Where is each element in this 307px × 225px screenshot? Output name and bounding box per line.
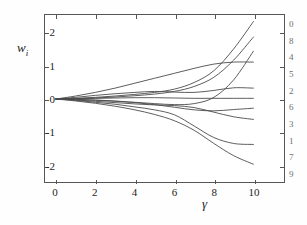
series-line-0 [56,22,254,99]
x-axis-title: γ [202,196,207,212]
series-end-label-0: 0 [289,19,294,29]
x-tick-2 [96,180,97,184]
x-tick-0 [56,180,57,184]
x-tick-top-6 [176,15,177,19]
series-line-7 [56,99,254,144]
y-axis-title-subscript: i [26,48,29,58]
x-tick-label-4: 4 [132,186,138,198]
series-end-label-9: 9 [289,169,294,179]
x-tick-6 [176,180,177,184]
y-tick-2 [45,33,49,34]
y-tick-right--1 [280,133,284,134]
figure-canvas: wi γ 0246810210-1-2 0845263179 [0,0,307,225]
series-line-9 [56,99,254,164]
y-axis-title-base: w [17,40,26,55]
curve-layer [45,15,284,182]
x-tick-label-8: 8 [212,186,218,198]
y-tick-0 [45,100,49,101]
x-tick-label-0: 0 [52,186,58,198]
y-tick-1 [45,67,49,68]
x-tick-top-2 [96,15,97,19]
plot-area [44,14,285,183]
series-end-label-6: 6 [289,102,294,112]
x-tick-top-10 [255,15,256,19]
y-tick-label-2: 2 [50,26,56,38]
y-tick-right-1 [280,67,284,68]
y-axis-title: wi [17,40,28,58]
x-tick-label-6: 6 [172,186,178,198]
y-tick-label-neg1: -1 [46,126,55,138]
x-tick-top-4 [136,15,137,19]
series-end-label-7: 7 [289,152,294,162]
x-tick-top-8 [215,15,216,19]
y-tick-label-neg2: -2 [46,160,55,172]
x-tick-4 [136,180,137,184]
series-end-label-3: 3 [289,119,294,129]
series-end-label-4: 4 [289,52,294,62]
x-tick-8 [215,180,216,184]
x-tick-top-0 [56,15,57,19]
series-end-label-1: 1 [289,136,294,146]
x-tick-10 [255,180,256,184]
y-tick-label-1: 1 [50,60,56,72]
x-tick-label-10: 10 [249,186,260,198]
x-tick-label-2: 2 [92,186,98,198]
series-end-label-5: 5 [289,69,294,79]
y-tick-right-0 [280,100,284,101]
series-end-label-8: 8 [289,36,294,46]
series-end-label-2: 2 [289,86,294,96]
y-tick-right--2 [280,167,284,168]
y-tick-label-0: 0 [50,93,56,105]
series-line-5 [56,62,254,99]
y-tick-right-2 [280,33,284,34]
